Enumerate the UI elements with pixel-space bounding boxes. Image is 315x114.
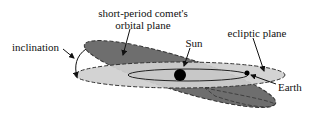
sun-icon (174, 69, 186, 81)
orbital-planes-diagram: short-period comet's orbital plane Sun e… (0, 0, 315, 114)
comet-plane-label-line2: orbital plane (115, 19, 170, 31)
earth-label: Earth (278, 81, 302, 93)
ecliptic-plane-label: ecliptic plane (228, 27, 287, 39)
inclination-arrow (63, 49, 74, 58)
inclination-label: inclination (12, 41, 60, 53)
sun-label: Sun (185, 37, 203, 49)
earth-icon (245, 71, 250, 76)
comet-plane-label-line1: short-period comet's (98, 7, 188, 19)
